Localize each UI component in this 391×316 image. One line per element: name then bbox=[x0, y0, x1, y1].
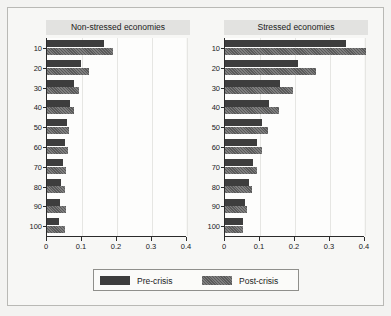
bar-group-non-stressed-economies-20 bbox=[47, 58, 186, 78]
ytick-mark-stressed-economies-70 bbox=[221, 167, 224, 168]
ytick-mark-stressed-economies-100 bbox=[221, 226, 224, 227]
bar-non-stressed-economies-10-post-crisis bbox=[47, 48, 113, 55]
bar-stressed-economies-100-post-crisis bbox=[225, 226, 243, 233]
ytick-label-non-stressed-economies-20: 20 bbox=[18, 63, 42, 72]
bar-stressed-economies-50-post-crisis bbox=[225, 127, 268, 134]
bar-non-stressed-economies-60-pre-crisis bbox=[47, 139, 65, 146]
bar-non-stressed-economies-50-pre-crisis bbox=[47, 119, 67, 126]
legend-label-post-crisis: Post-crisis bbox=[239, 276, 278, 286]
bar-group-non-stressed-economies-10 bbox=[47, 38, 186, 58]
bar-stressed-economies-40-pre-crisis bbox=[225, 100, 269, 107]
ytick-mark-non-stressed-economies-90 bbox=[43, 206, 46, 207]
gridline-x-0.4 bbox=[187, 38, 188, 236]
bar-stressed-economies-20-pre-crisis bbox=[225, 60, 298, 67]
bar-stressed-economies-10-post-crisis bbox=[225, 48, 366, 55]
bar-group-stressed-economies-80 bbox=[225, 177, 364, 197]
bar-non-stressed-economies-50-post-crisis bbox=[47, 127, 69, 134]
bar-stressed-economies-100-pre-crisis bbox=[225, 218, 243, 225]
xtick-mark-non-stressed-economies-0.1 bbox=[81, 237, 82, 241]
chart-figure: Non-stressed economies102030405060708090… bbox=[0, 0, 391, 316]
bar-stressed-economies-60-post-crisis bbox=[225, 147, 262, 154]
ytick-mark-non-stressed-economies-50 bbox=[43, 127, 46, 128]
bar-stressed-economies-60-pre-crisis bbox=[225, 139, 257, 146]
ytick-label-non-stressed-economies-70: 70 bbox=[18, 162, 42, 171]
xtick-label-non-stressed-economies-0.4: 0.4 bbox=[181, 242, 191, 251]
ytick-mark-non-stressed-economies-60 bbox=[43, 147, 46, 148]
bar-group-non-stressed-economies-60 bbox=[47, 137, 186, 157]
bar-group-non-stressed-economies-100 bbox=[47, 216, 186, 236]
ytick-mark-stressed-economies-40 bbox=[221, 107, 224, 108]
ytick-label-stressed-economies-10: 10 bbox=[196, 43, 220, 52]
bar-non-stressed-economies-10-pre-crisis bbox=[47, 40, 104, 47]
bar-group-stressed-economies-100 bbox=[225, 216, 364, 236]
ytick-label-non-stressed-economies-50: 50 bbox=[18, 123, 42, 132]
bar-non-stressed-economies-30-post-crisis bbox=[47, 87, 79, 94]
xtick-mark-stressed-economies-0.4 bbox=[364, 237, 365, 241]
ytick-mark-stressed-economies-20 bbox=[221, 68, 224, 69]
bar-non-stressed-economies-70-post-crisis bbox=[47, 167, 66, 174]
ytick-label-stressed-economies-60: 60 bbox=[196, 142, 220, 151]
ytick-mark-stressed-economies-30 bbox=[221, 88, 224, 89]
legend-entry-post-crisis[interactable]: Post-crisis bbox=[202, 274, 278, 287]
bar-stressed-economies-30-post-crisis bbox=[225, 87, 293, 94]
bar-stressed-economies-20-post-crisis bbox=[225, 68, 316, 75]
xtick-mark-non-stressed-economies-0 bbox=[46, 237, 47, 241]
xtick-label-stressed-economies-0.2: 0.2 bbox=[289, 242, 299, 251]
ytick-mark-stressed-economies-80 bbox=[221, 187, 224, 188]
bar-non-stressed-economies-100-pre-crisis bbox=[47, 218, 59, 225]
xtick-label-non-stressed-economies-0: 0 bbox=[44, 242, 48, 251]
ytick-mark-stressed-economies-10 bbox=[221, 48, 224, 49]
xtick-label-stressed-economies-0.4: 0.4 bbox=[359, 242, 369, 251]
bar-group-stressed-economies-60 bbox=[225, 137, 364, 157]
ytick-label-stressed-economies-40: 40 bbox=[196, 103, 220, 112]
xtick-label-stressed-economies-0: 0 bbox=[222, 242, 226, 251]
xtick-label-non-stressed-economies-0.1: 0.1 bbox=[76, 242, 86, 251]
bar-group-stressed-economies-30 bbox=[225, 78, 364, 98]
xtick-mark-stressed-economies-0.2 bbox=[294, 237, 295, 241]
bar-non-stressed-economies-20-pre-crisis bbox=[47, 60, 81, 67]
ytick-mark-non-stressed-economies-20 bbox=[43, 68, 46, 69]
xtick-mark-stressed-economies-0.1 bbox=[259, 237, 260, 241]
bar-group-non-stressed-economies-40 bbox=[47, 97, 186, 117]
bar-non-stressed-economies-100-post-crisis bbox=[47, 226, 65, 233]
xtick-mark-non-stressed-economies-0.2 bbox=[116, 237, 117, 241]
xtick-label-stressed-economies-0.1: 0.1 bbox=[254, 242, 264, 251]
ytick-label-stressed-economies-90: 90 bbox=[196, 202, 220, 211]
bar-stressed-economies-70-post-crisis bbox=[225, 167, 257, 174]
bar-non-stressed-economies-90-pre-crisis bbox=[47, 199, 60, 206]
panel-title-stressed-economies: Stressed economies bbox=[224, 20, 368, 35]
ytick-label-non-stressed-economies-100: 100 bbox=[18, 222, 42, 231]
bar-stressed-economies-80-post-crisis bbox=[225, 186, 252, 193]
bar-non-stressed-economies-30-pre-crisis bbox=[47, 80, 74, 87]
bar-group-stressed-economies-50 bbox=[225, 117, 364, 137]
ytick-label-non-stressed-economies-60: 60 bbox=[18, 142, 42, 151]
bar-non-stressed-economies-70-pre-crisis bbox=[47, 159, 63, 166]
bar-non-stressed-economies-80-pre-crisis bbox=[47, 179, 61, 186]
ytick-mark-non-stressed-economies-100 bbox=[43, 226, 46, 227]
bar-non-stressed-economies-20-post-crisis bbox=[47, 68, 89, 75]
xtick-label-non-stressed-economies-0.2: 0.2 bbox=[111, 242, 121, 251]
bar-group-stressed-economies-70 bbox=[225, 157, 364, 177]
xtick-mark-stressed-economies-0 bbox=[224, 237, 225, 241]
ytick-label-non-stressed-economies-30: 30 bbox=[18, 83, 42, 92]
ytick-mark-stressed-economies-90 bbox=[221, 206, 224, 207]
bar-non-stressed-economies-40-pre-crisis bbox=[47, 100, 70, 107]
chart-legend: Pre-crisisPost-crisis bbox=[93, 269, 299, 291]
xtick-mark-non-stressed-economies-0.3 bbox=[151, 237, 152, 241]
xtick-mark-non-stressed-economies-0.4 bbox=[186, 237, 187, 241]
ytick-mark-non-stressed-economies-80 bbox=[43, 187, 46, 188]
legend-entry-pre-crisis[interactable]: Pre-crisis bbox=[100, 274, 172, 287]
ytick-mark-non-stressed-economies-30 bbox=[43, 88, 46, 89]
ytick-label-stressed-economies-50: 50 bbox=[196, 123, 220, 132]
plot-area-stressed-economies bbox=[224, 38, 364, 236]
bar-group-stressed-economies-40 bbox=[225, 97, 364, 117]
bar-group-stressed-economies-20 bbox=[225, 58, 364, 78]
ytick-label-stressed-economies-70: 70 bbox=[196, 162, 220, 171]
bar-non-stressed-economies-90-post-crisis bbox=[47, 206, 66, 213]
ytick-label-non-stressed-economies-80: 80 bbox=[18, 182, 42, 191]
ytick-label-stressed-economies-30: 30 bbox=[196, 83, 220, 92]
ytick-mark-stressed-economies-60 bbox=[221, 147, 224, 148]
bar-group-non-stressed-economies-70 bbox=[47, 157, 186, 177]
panel-title-non-stressed-economies: Non-stressed economies bbox=[46, 20, 190, 35]
panel-stressed-economies: Stressed economies1020304050607080901000… bbox=[196, 20, 368, 258]
